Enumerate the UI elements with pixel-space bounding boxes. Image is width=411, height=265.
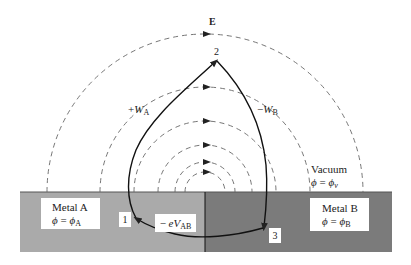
work-function-a-label: +WA <box>128 103 149 115</box>
metal-b-label: Metal B ϕ = ϕB <box>310 198 369 231</box>
wb-symbol: W <box>263 103 272 115</box>
vacuum-label: Vacuum ϕ = ϕv <box>311 163 347 189</box>
arrow-icon <box>203 31 211 37</box>
diagram-canvas: E 2 1 3 +WA −WB − eVAB Vacuum ϕ = ϕv Met… <box>0 0 411 265</box>
wb-subscript: B <box>272 108 277 117</box>
field-label-e: E <box>209 16 216 28</box>
arrow-icon <box>203 169 211 175</box>
metal-a-label: Metal A ϕ = ϕA <box>41 198 100 229</box>
arrow-icon <box>203 159 211 165</box>
field-arrowheads <box>203 31 211 175</box>
metal-b-potential: ϕ = ϕB <box>322 215 369 228</box>
contact-potential-label: − eVAB <box>155 214 196 232</box>
metal-a-potential: ϕ = ϕA <box>52 214 100 227</box>
arrow-icon <box>203 84 211 90</box>
field-line-6 <box>185 172 225 192</box>
evab-subscript: AB <box>180 222 191 231</box>
evab-sign: − <box>160 217 169 229</box>
field-line-3 <box>134 121 276 192</box>
metal-b-title: Metal B <box>322 202 369 215</box>
arrow-icon <box>203 142 211 148</box>
point-3-label: 3 <box>269 228 281 243</box>
field-line-5 <box>175 162 235 192</box>
evab-symbol: eV <box>169 217 181 229</box>
wa-subscript: A <box>143 108 149 117</box>
wa-symbol: W <box>134 103 143 115</box>
vacuum-potential: ϕ = ϕv <box>311 176 347 189</box>
metal-a-title: Metal A <box>52 201 100 214</box>
arrow-icon <box>203 118 211 124</box>
vacuum-title: Vacuum <box>311 163 347 176</box>
point-1-label: 1 <box>119 212 131 227</box>
field-line-4 <box>158 145 252 192</box>
point-2-label: 2 <box>214 46 219 58</box>
work-function-b-label: −WB <box>257 103 278 115</box>
